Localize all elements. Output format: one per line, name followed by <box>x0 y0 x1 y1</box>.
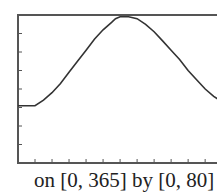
data-curve <box>18 17 217 106</box>
line-chart <box>0 0 217 193</box>
window-caption: on [0, 365] by [0, 80] <box>34 168 214 193</box>
axis-ticks <box>18 34 217 164</box>
plot-frame <box>18 15 217 163</box>
